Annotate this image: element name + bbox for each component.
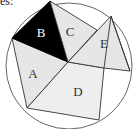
geometry-diagram: A B C D E bbox=[0, 0, 136, 129]
label-c: C bbox=[66, 24, 75, 39]
label-e: E bbox=[100, 36, 108, 51]
label-d: D bbox=[73, 84, 82, 99]
label-a: A bbox=[28, 66, 38, 81]
label-b: B bbox=[37, 25, 46, 40]
